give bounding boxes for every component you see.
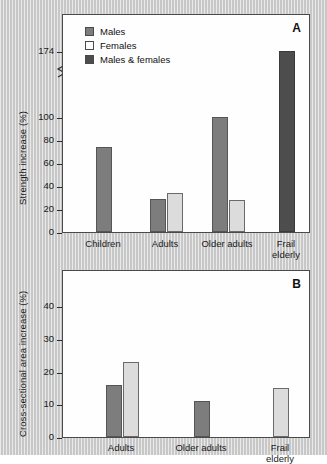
legend-label: Females — [100, 40, 136, 51]
legend-swatch-males-and-females — [85, 55, 94, 64]
legend-item: Females — [85, 39, 170, 52]
panel-b-y-tick-label: 30 — [24, 334, 54, 344]
panel-b-y-tick-label: 10 — [24, 399, 54, 409]
panel-b-x-tick-label: Frail elderly — [244, 442, 316, 464]
legend-swatch-females — [85, 41, 94, 50]
panel-b-x-tick-label: Adults — [85, 442, 157, 453]
panel-a-bar — [212, 117, 228, 232]
panel-b-bar — [106, 385, 122, 437]
panel-a-y-tick-label: 100 — [24, 112, 54, 122]
panel-b-y-tick-label: 0 — [24, 432, 54, 442]
panel-a-x-tick-label: Frail elderly — [250, 238, 322, 260]
panel-b-y-tick-label: 20 — [24, 367, 54, 377]
panel-b-bar — [273, 388, 289, 437]
panel-a-bar — [167, 193, 183, 232]
panel-a-y-tick-label: 174 — [24, 46, 54, 56]
panel-b-y-tick-label: 40 — [24, 301, 54, 311]
legend-label: Males — [100, 26, 125, 37]
legend-swatch-males — [85, 27, 94, 36]
panel-a-bar — [150, 199, 166, 232]
panel-a-y-tick-label: 0 — [24, 227, 54, 237]
panel-a-bar — [279, 51, 295, 232]
legend-item: Males — [85, 25, 170, 38]
panel-a-bar — [229, 200, 245, 232]
legend-item: Males & females — [85, 53, 170, 66]
panel-b-x-tick-label: Older adults — [165, 442, 237, 453]
panel-b-y-tick-mark — [57, 438, 62, 439]
panel-b-plot-area: B — [62, 270, 310, 438]
legend-label: Males & females — [100, 54, 170, 65]
panel-a-y-tick-label: 20 — [24, 204, 54, 214]
panel-a-y-tick-mark — [57, 233, 62, 234]
panel-b-bar — [123, 362, 139, 437]
panel-a-y-tick-label: 80 — [24, 135, 54, 145]
panel-b-letter: B — [292, 277, 301, 291]
panel-a-letter: A — [292, 21, 301, 35]
panel-b-y-axis-label: Cross-sectional area increase (%) — [17, 291, 28, 437]
legend: MalesFemalesMales & females — [85, 25, 170, 67]
panel-b-bar — [194, 401, 210, 437]
panel-a-y-tick-label: 60 — [24, 158, 54, 168]
panel-a-bar — [96, 147, 112, 232]
panel-a-plot-area: A MalesFemalesMales & females — [62, 14, 310, 233]
panel-a-y-tick-label: 40 — [24, 181, 54, 191]
